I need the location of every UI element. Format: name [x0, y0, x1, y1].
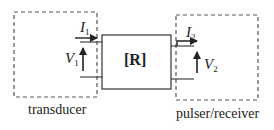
pulser-receiver-label: pulser/receiver	[176, 106, 259, 122]
i1-label: I1	[80, 19, 90, 37]
i2-label: I2	[186, 24, 196, 42]
r-matrix-label: [R]	[124, 51, 146, 69]
transducer-label: transducer	[28, 102, 86, 118]
v1-label: V1	[65, 50, 79, 68]
v2-label: V2	[204, 56, 218, 74]
